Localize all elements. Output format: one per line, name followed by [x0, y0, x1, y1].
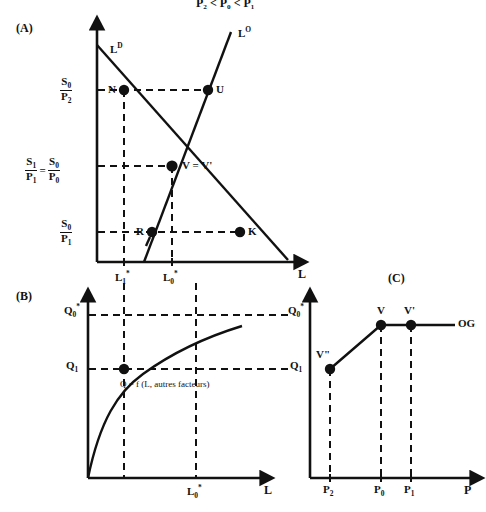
figure-canvas: [0, 0, 486, 512]
s0p2-nsub: 0: [67, 81, 71, 90]
panel-c-x-axis-label: P: [464, 484, 471, 496]
panel-c-xtick-p2: P2: [323, 484, 333, 498]
cq1-base: Q: [290, 359, 299, 371]
panel-c-guide-lines: [330, 325, 411, 478]
economics-figure: P₂ < P₀ < P₁ (A) (B) (C) LD LO S0 P2 S1 …: [0, 0, 486, 512]
p2-base: P: [323, 483, 330, 495]
panel-a-xtick-l1: L1*: [115, 270, 130, 285]
panel-a-point-label-n: N: [108, 84, 116, 95]
panel-a-tag: (A): [16, 22, 33, 34]
s1p1-dsub: 1: [33, 176, 37, 185]
bq0-sup: *: [76, 302, 80, 311]
panel-b-x-axis-label: L: [264, 484, 272, 496]
panel-c-point-label-v: V: [377, 305, 385, 316]
panel-b-tag: (B): [16, 290, 32, 302]
panel-a-point-label-k: K: [248, 226, 257, 237]
panel-a-xtick-l0: L0*: [163, 270, 178, 285]
panel-a-point-label-u: U: [216, 84, 224, 95]
panel-a-demand-curve: [97, 45, 288, 260]
panel-c-supply-curve: [330, 325, 455, 369]
s0p1-den: P: [61, 232, 68, 244]
panel-a-ytick-s0-p1: S0 P1: [60, 218, 72, 247]
point-v-double-prime: [325, 364, 335, 374]
panel-c-points: [325, 320, 416, 374]
panel-b-ytick-q0: Q0*: [64, 303, 80, 318]
panel-a-x-axis-label: L: [298, 268, 306, 280]
cq0-sub: 0: [297, 310, 301, 319]
bl0-sup: *: [198, 483, 202, 492]
labour-demand-curve-label: LD: [110, 42, 123, 55]
s1p1-den: P: [26, 170, 33, 182]
l1-sup: *: [126, 269, 130, 278]
panel-a-ytick-s1-p1-eq-s0-p0: S1 P1 = S0 P0: [25, 152, 60, 185]
s0p0-dsub: 0: [55, 176, 59, 185]
panel-c-axes: [310, 300, 472, 478]
p0-sub: 0: [381, 489, 385, 498]
lo-sup: O: [245, 25, 251, 34]
panel-b-ytick-q1: Q1: [66, 360, 78, 374]
cq0-base: Q: [288, 304, 297, 316]
point-k: [235, 227, 245, 237]
s0p1-dsub: 1: [68, 238, 72, 247]
panel-b-curve-note: Q = f (L, autres facteurs): [120, 380, 210, 389]
p1-sub: 1: [411, 489, 415, 498]
l0-sub: 0: [170, 277, 174, 286]
top-equation: P₂ < P₀ < P₁: [196, 0, 254, 9]
s1p1-nsub: 1: [32, 161, 36, 170]
panel-b-production-curve: [88, 326, 242, 478]
labour-supply-curve-label: LO: [238, 26, 251, 39]
s0p0-nsub: 0: [55, 161, 59, 170]
panel-a-axes: [97, 28, 296, 262]
point-r: [147, 227, 157, 237]
panel-a-guide-lines: [98, 90, 240, 262]
bq0-sub: 0: [73, 310, 77, 319]
panel-c-ytick-q1: Q1: [290, 360, 302, 374]
point-v-prime: [406, 320, 416, 330]
point-q1: [119, 364, 129, 374]
point-n: [119, 85, 129, 95]
s0p1-nsub: 0: [67, 223, 71, 232]
point-v: [166, 160, 177, 171]
cq1-sub: 1: [299, 365, 303, 374]
panel-c-point-label-v-double-prime: V": [316, 349, 330, 360]
l0-sup: *: [174, 269, 178, 278]
point-u: [203, 85, 213, 95]
bl0-sub: 0: [194, 491, 198, 500]
panel-c-xtick-p1: P1: [404, 484, 414, 498]
panel-a-point-label-r: R: [136, 226, 144, 237]
panel-a-point-label-v: V = V': [182, 160, 212, 171]
p0-base: P: [374, 483, 381, 495]
panel-a-ytick-s0-p2: S0 P2: [60, 76, 72, 105]
p2-sub: 2: [330, 489, 334, 498]
l1-sub: 1: [122, 277, 126, 286]
ld-sup: D: [117, 41, 122, 50]
panel-c-curve-label-og: OG: [458, 318, 475, 329]
panel-b-points: [119, 364, 129, 374]
panel-c-tag: (C): [388, 272, 405, 284]
panel-c-ytick-q0: Q0*: [288, 303, 304, 318]
bq1-sub: 1: [75, 365, 79, 374]
equals-sign: =: [39, 165, 45, 176]
bq1-base: Q: [66, 359, 75, 371]
panel-b-xtick-l0: L0*: [187, 484, 202, 499]
panel-c-point-label-v-prime: V': [404, 305, 415, 316]
cq0-sup: *: [300, 302, 304, 311]
panel-a-supply-curve: [144, 32, 231, 262]
s0p2-den: P: [61, 90, 68, 102]
bq0-base: Q: [64, 304, 73, 316]
panel-c-xtick-p0: P0: [374, 484, 384, 498]
s0p2-dsub: 2: [68, 96, 72, 105]
point-v: [376, 320, 386, 330]
p1-base: P: [404, 483, 411, 495]
